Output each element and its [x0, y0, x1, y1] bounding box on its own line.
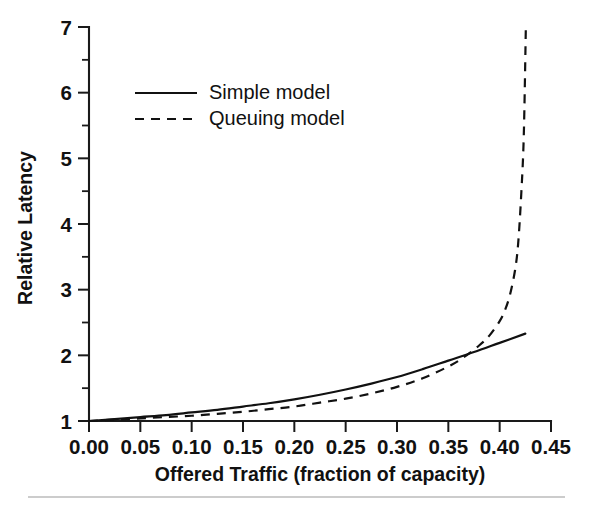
x-axis-major-ticks [89, 421, 551, 432]
x-tick-label: 0.20 [274, 435, 314, 458]
x-tick-label: 0.30 [377, 435, 417, 458]
x-tick-label: 0.40 [480, 435, 520, 458]
x-tick-label: 0.25 [326, 435, 366, 458]
y-tick-label: 3 [61, 278, 72, 301]
y-axis-tick-labels: 1234567 [61, 16, 73, 433]
x-tick-label: 0.35 [428, 435, 468, 458]
latency-vs-offered-traffic-chart: 1234567 0.000.050.100.150.200.250.300.35… [0, 0, 593, 511]
x-axis-title: Offered Traffic (fraction of capacity) [155, 463, 485, 485]
y-tick-label: 4 [61, 213, 73, 236]
y-tick-label: 1 [61, 410, 72, 433]
x-tick-label: 0.45 [531, 435, 571, 458]
series-simple-model [89, 334, 525, 421]
legend-label-queuing-model: Queuing model [209, 107, 345, 129]
y-tick-label: 5 [61, 147, 72, 170]
y-tick-label: 2 [61, 344, 72, 367]
x-tick-label: 0.00 [69, 435, 109, 458]
chart-legend: Simple model Queuing model [135, 81, 345, 129]
y-axis-title: Relative Latency [14, 151, 36, 305]
x-axis-tick-labels: 0.000.050.100.150.200.250.300.350.400.45 [69, 435, 571, 458]
y-tick-label: 7 [61, 16, 72, 39]
x-tick-label: 0.05 [120, 435, 160, 458]
x-tick-label: 0.15 [223, 435, 263, 458]
y-tick-label: 6 [61, 81, 72, 104]
y-axis-major-ticks [78, 27, 89, 421]
x-tick-label: 0.10 [172, 435, 212, 458]
legend-label-simple-model: Simple model [209, 81, 330, 103]
figure-container: 1234567 0.000.050.100.150.200.250.300.35… [0, 0, 593, 511]
